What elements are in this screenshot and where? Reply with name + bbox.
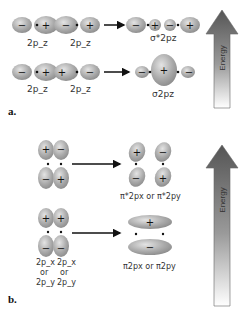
energy-arrow-a: Energy (206, 10, 238, 108)
orbital-label-2pz: 2p_z (27, 84, 48, 94)
sign: + (133, 147, 141, 158)
sign: − (185, 67, 193, 78)
sign: + (57, 213, 65, 224)
sign: − (138, 67, 146, 78)
sign: − (57, 243, 65, 254)
sign: − (62, 20, 70, 31)
sign: − (159, 147, 167, 158)
mo-label-pi-star: π*2px or π*2py (120, 192, 181, 201)
part-a-label: a. (8, 105, 16, 117)
sign: + (151, 20, 159, 31)
sign: + (160, 65, 168, 76)
mo-label-sigma-star: σ*2pz (150, 33, 176, 43)
sign: − (18, 67, 26, 78)
orbital-label-2py: 2p_y (36, 278, 55, 287)
sign: + (58, 67, 66, 78)
sign: + (186, 20, 194, 31)
part-b-label: b. (8, 293, 17, 305)
sign: + (146, 217, 154, 228)
sign: − (18, 20, 26, 31)
sign: − (132, 20, 140, 31)
sign: − (166, 20, 174, 31)
mo-label-pi: π2px or π2py (123, 262, 176, 271)
sign: − (146, 242, 154, 253)
sign: + (42, 144, 50, 155)
sign: − (86, 67, 94, 78)
sign: + (159, 173, 167, 184)
orbital-label-2pz: 2p_z (70, 84, 91, 94)
sign: + (86, 20, 94, 31)
row-a2-left-orbitals: − + + − (12, 63, 100, 81)
sign: − (42, 174, 50, 185)
energy-arrow-b: Energy (206, 145, 238, 306)
orbital-label-2py: 2p_y (57, 278, 76, 287)
sign: + (42, 67, 50, 78)
orbital-label-2pz: 2p_z (70, 38, 91, 48)
orbital-label-2px: 2p_x (57, 258, 76, 267)
row-b2-pi-orbital: + − (128, 215, 172, 255)
orbital-label-2px: 2p_x (36, 258, 55, 267)
sign: − (57, 144, 65, 155)
energy-label: Energy (218, 45, 227, 70)
row-a1-sigma-star-orbital: − + − + (126, 17, 200, 33)
sign: − (132, 173, 140, 184)
row-a2-sigma-orbital: − + − (135, 54, 195, 86)
energy-label: Energy (218, 187, 227, 212)
mo-label-sigma: σ2pz (152, 89, 174, 99)
row-b1-pi-star-orbital: + − − + (126, 140, 174, 189)
row-b1-left-orbitals: + − − + (38, 140, 69, 189)
row-b2-left-orbitals: + + − − (38, 208, 69, 257)
or-label: or (40, 268, 48, 277)
or-label: or (60, 268, 68, 277)
sign: + (57, 174, 65, 185)
orbital-label-2pz: 2p_z (27, 38, 48, 48)
sign: − (42, 243, 50, 254)
sign: + (42, 20, 50, 31)
sign: + (42, 213, 50, 224)
